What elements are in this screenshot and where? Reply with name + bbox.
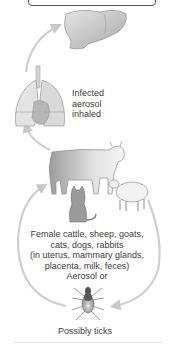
aerosol-label-line: Infected	[72, 88, 132, 99]
hosts-label-line: Aerosol or	[14, 271, 160, 282]
tick-icon	[72, 287, 104, 320]
lungs-icon	[15, 66, 64, 126]
hosts-label-line: Female cattle, sheep, goats,	[14, 229, 160, 240]
ticks-label: Possibly ticks	[30, 326, 140, 337]
aerosol-label: Infected aerosol inhaled	[72, 88, 132, 120]
cycle-diagram	[0, 0, 172, 346]
aerosol-label-line: aerosol	[72, 99, 132, 110]
sheep-icon	[109, 180, 148, 211]
hosts-label-line: placenta, milk, feces)	[14, 261, 160, 272]
divider	[14, 342, 162, 343]
aerosol-label-line: inhaled	[72, 109, 132, 120]
liver-icon	[65, 10, 127, 49]
arrow-hosts-to-lungs	[26, 126, 50, 150]
hosts-label: Female cattle, sheep, goats, cats, dogs,…	[14, 229, 160, 282]
cat-icon	[69, 186, 96, 222]
arrow-lungs-to-liver	[26, 26, 58, 72]
hosts-label-line: cats, dogs, rabbits	[14, 240, 160, 251]
hosts-label-line: (in uterus, mammary glands,	[14, 250, 160, 261]
